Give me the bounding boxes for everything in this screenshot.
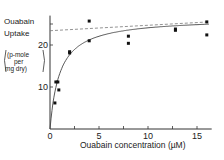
data-point bbox=[68, 50, 71, 53]
y-axis-label-line: Ouabain bbox=[4, 17, 34, 26]
data-point bbox=[205, 33, 208, 36]
data-point bbox=[127, 35, 130, 38]
data-point bbox=[56, 80, 59, 83]
y-tick-label: 20 bbox=[38, 40, 48, 50]
data-point bbox=[174, 29, 177, 32]
uptake-chart: 0510151020OuabainUptake(p-molepermg dry)… bbox=[0, 0, 224, 160]
y-label-bracket-right bbox=[43, 50, 45, 72]
data-point bbox=[57, 88, 60, 91]
data-point bbox=[205, 20, 208, 23]
data-point bbox=[88, 39, 91, 42]
y-axis-label-line: Uptake bbox=[4, 29, 30, 38]
y-axis-label-line: mg dry) bbox=[5, 65, 27, 73]
y-tick-label: 10 bbox=[38, 82, 48, 92]
x-axis-label: Ouabain concentration (µM) bbox=[80, 140, 186, 150]
x-tick-label: 0 bbox=[47, 131, 52, 141]
fitted-curve bbox=[50, 24, 209, 129]
data-point bbox=[53, 101, 56, 104]
dashed-asymptote-line bbox=[50, 22, 209, 31]
x-tick-label: 15 bbox=[192, 131, 202, 141]
data-point bbox=[127, 42, 130, 45]
data-point bbox=[88, 20, 91, 23]
